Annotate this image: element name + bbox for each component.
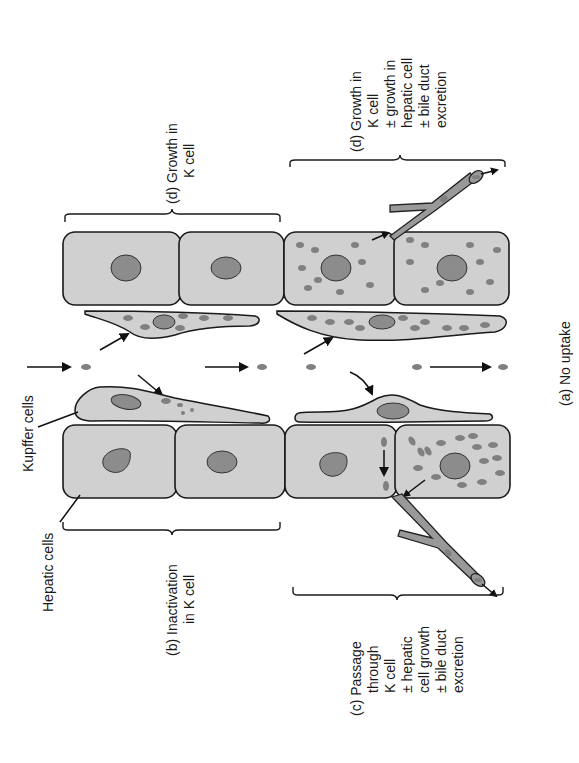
svg-text:in K cell: in K cell: [181, 575, 197, 624]
brace-c: [293, 587, 503, 600]
brace-d2: [290, 155, 505, 167]
uptake-arrows: [27, 334, 508, 395]
svg-text:± bile duct: ± bile duct: [416, 64, 432, 128]
svg-text:excretion: excretion: [433, 71, 449, 128]
svg-text:(d) Growth in: (d) Growth in: [348, 71, 364, 152]
label-hepatic-cells: Hepatic cells: [40, 533, 56, 612]
kupffer-cell-bottom-right: [295, 395, 492, 422]
label-c: (c) Passage through K cell ± hepatic cel…: [348, 626, 466, 716]
svg-text:± growth in: ± growth in: [382, 60, 398, 128]
brace-b: [63, 522, 280, 535]
label-kupffer-cells: Kupffer cells: [20, 395, 36, 472]
hepatic-cells-bottom-left: [63, 425, 285, 498]
label-a: (a) No uptake: [557, 321, 573, 406]
svg-text:through: through: [365, 646, 381, 693]
label-d1: (d) Growth in K cell: [164, 123, 197, 204]
svg-text:hepatic cell: hepatic cell: [399, 58, 415, 128]
kupffer-cell-top-right: [277, 311, 506, 340]
kupffer-cell-top-left: [85, 311, 259, 338]
label-d2: (d) Growth in K cell ± growth in hepatic…: [348, 58, 449, 152]
svg-text:(c) Passage: (c) Passage: [348, 641, 364, 716]
kupffer-cell-bottom-left: [75, 387, 270, 424]
svg-text:K cell: K cell: [181, 144, 197, 178]
hepatic-cells-top-left: [63, 232, 284, 305]
svg-text:cell growth: cell growth: [416, 626, 432, 693]
label-b: (b) Inactivation in K cell: [164, 564, 197, 656]
svg-text:(d) Growth in: (d) Growth in: [164, 123, 180, 204]
bile-duct-bottom: [392, 494, 496, 596]
hepatic-cells-bottom-right: [285, 425, 510, 498]
svg-text:± hepatic: ± hepatic: [399, 636, 415, 693]
hepatic-pointer: [60, 495, 80, 522]
svg-text:± bile duct: ± bile duct: [433, 629, 449, 693]
svg-text:(b) Inactivation: (b) Inactivation: [164, 564, 180, 656]
svg-text:excretion: excretion: [450, 636, 466, 693]
bile-duct-top: [372, 168, 497, 240]
brace-d1: [65, 209, 280, 222]
svg-text:K cell: K cell: [365, 94, 381, 128]
hepatic-cells-top-right: [284, 232, 509, 305]
svg-text:K cell: K cell: [382, 659, 398, 693]
liver-uptake-diagram: Kupffer cells Hepatic cells (b) Inactiva…: [0, 0, 579, 763]
